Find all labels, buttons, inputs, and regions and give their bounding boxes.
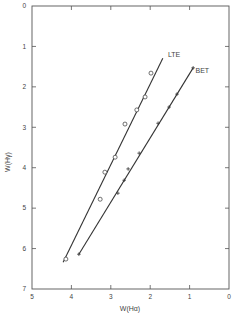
y-tick-label: 2 [22, 83, 26, 90]
x-tick-label: 4 [70, 293, 74, 300]
x-tick-label: 2 [148, 293, 152, 300]
x-tick-label: 0 [227, 293, 231, 300]
plot-frame [32, 6, 229, 289]
circle-marker [123, 122, 127, 126]
y-tick-label: 4 [22, 164, 26, 171]
chart: 54321001234567 LTEBET W(Hα) W(Hγ) [0, 0, 236, 321]
x-tick-label: 5 [30, 293, 34, 300]
fit-line-lte [63, 58, 163, 262]
y-tick-label: 7 [22, 285, 26, 292]
circle-marker [135, 108, 139, 112]
y-tick-label: 0 [22, 2, 26, 9]
series-label-bet: BET [196, 67, 210, 74]
axis-ticks: 54321001234567 [22, 2, 231, 300]
circle-marker [143, 95, 147, 99]
circle-marker [64, 257, 68, 261]
y-tick-label: 6 [22, 245, 26, 252]
circle-marker [98, 197, 102, 201]
series-labels: LTEBET [168, 51, 210, 74]
y-tick-label: 5 [22, 204, 26, 211]
series-label-lte: LTE [168, 51, 181, 58]
circle-marker [149, 71, 153, 75]
y-tick-label: 3 [22, 124, 26, 131]
data-markers [64, 66, 195, 261]
fit-line-bet [79, 68, 193, 254]
x-axis-label: W(Hα) [120, 305, 140, 313]
plot-border [32, 6, 229, 289]
y-tick-label: 1 [22, 43, 26, 50]
x-tick-label: 1 [188, 293, 192, 300]
circle-marker [103, 170, 107, 174]
fit-lines [63, 58, 193, 262]
x-tick-label: 3 [109, 293, 113, 300]
circle-marker [113, 155, 117, 159]
y-axis-label: W(Hγ) [4, 152, 12, 172]
cross-marker [126, 167, 130, 171]
